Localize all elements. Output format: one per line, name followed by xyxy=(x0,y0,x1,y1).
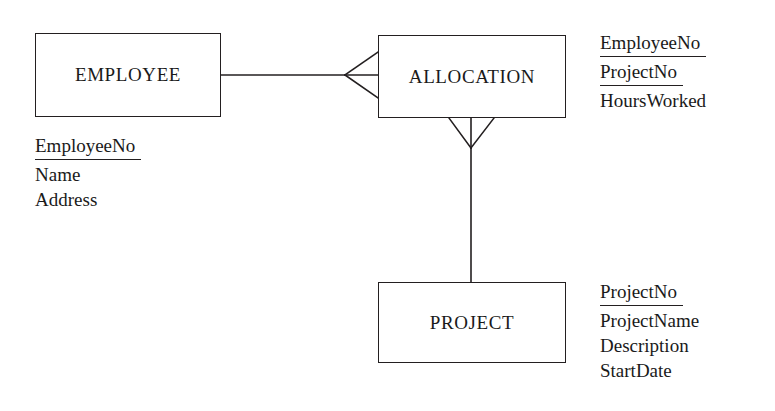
crowsfoot-allocation-bottom-right-prong xyxy=(471,118,494,148)
crowsfoot-allocation-left-upper-prong xyxy=(345,52,378,75)
entity-box-allocation[interactable]: ALLOCATION xyxy=(378,35,566,118)
attribute-project-startdate: StartDate xyxy=(600,358,672,383)
attribute-project-key: ProjectNo xyxy=(600,279,683,306)
entity-label-allocation: ALLOCATION xyxy=(409,66,535,88)
attribute-allocation-key-employeeno: EmployeeNo xyxy=(600,30,706,57)
attribute-list-employee: EmployeeNo Name Address xyxy=(35,133,141,212)
attribute-project-description: Description xyxy=(600,333,689,358)
crowsfoot-allocation-bottom-left-prong xyxy=(449,118,471,148)
attribute-list-project: ProjectNo ProjectName Description StartD… xyxy=(600,279,699,383)
attribute-project-name: ProjectName xyxy=(600,308,699,333)
entity-box-project[interactable]: PROJECT xyxy=(378,282,566,363)
attribute-employee-name: Name xyxy=(35,162,80,187)
attribute-employee-address: Address xyxy=(35,187,97,212)
attribute-employee-key: EmployeeNo xyxy=(35,133,141,160)
crowsfoot-allocation-left-lower-prong xyxy=(345,75,378,98)
attribute-allocation-key-projectno: ProjectNo xyxy=(600,59,683,86)
entity-box-employee[interactable]: EMPLOYEE xyxy=(35,33,221,117)
attribute-allocation-hoursworked: HoursWorked xyxy=(600,88,706,113)
attribute-list-allocation: EmployeeNo ProjectNo HoursWorked xyxy=(600,30,706,113)
er-diagram-canvas: EMPLOYEE ALLOCATION PROJECT EmployeeNo N… xyxy=(0,0,775,411)
entity-label-employee: EMPLOYEE xyxy=(75,64,181,86)
entity-label-project: PROJECT xyxy=(430,312,514,334)
